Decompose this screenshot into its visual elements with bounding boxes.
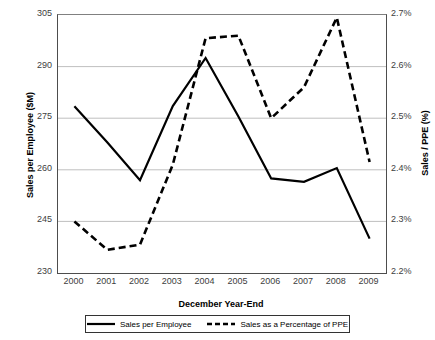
legend-entry[interactable]: Sales as a Percentage of PPE bbox=[207, 320, 348, 329]
gridlines bbox=[58, 67, 386, 222]
solid-line-icon bbox=[87, 320, 115, 328]
chart-container: Sales per Employee ($M) Sales / PPE (%) … bbox=[0, 0, 435, 340]
series-line-0 bbox=[74, 58, 369, 239]
chart-legend: Sales per EmployeeSales as a Percentage … bbox=[85, 315, 350, 333]
series-line-1 bbox=[74, 18, 369, 250]
legend-label: Sales as a Percentage of PPE bbox=[240, 320, 348, 329]
legend-entry[interactable]: Sales per Employee bbox=[87, 320, 192, 329]
legend-label: Sales per Employee bbox=[120, 320, 192, 329]
dashed-line-icon bbox=[207, 320, 235, 328]
x-axis-tick-label: 2009 bbox=[349, 276, 389, 286]
plot-area bbox=[57, 14, 387, 274]
plot-svg bbox=[58, 15, 386, 273]
series-lines bbox=[74, 18, 369, 250]
